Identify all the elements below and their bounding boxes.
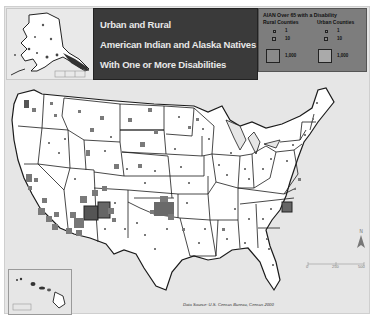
legend-urban-value-2: 10 xyxy=(337,36,342,41)
data-source-note: Data Source: U.S. Census Bureau, Census … xyxy=(183,302,274,307)
legend-rural-value-1: 1 xyxy=(285,28,288,33)
legend-rural-symbol-large xyxy=(266,49,280,63)
legend-rural-value-2: 10 xyxy=(285,36,290,41)
legend-urban-value-1: 1 xyxy=(337,28,340,33)
title-line-1: Urban and Rural xyxy=(100,19,171,30)
legend-rural-value-3: 1,000 xyxy=(285,53,296,58)
legend-title: AIAN Over 65 with a Disability xyxy=(263,12,337,18)
hawaii-shape xyxy=(9,270,71,314)
title-line-3: With One or More Disabilities xyxy=(100,59,226,70)
legend: AIAN Over 65 with a Disability Rural Cou… xyxy=(258,8,367,72)
title-panel: Urban and Rural American Indian and Alas… xyxy=(93,8,258,80)
scale-label-250: 250 xyxy=(332,264,339,269)
map-figure: Urban and Rural American Indian and Alas… xyxy=(0,0,373,324)
title-line-2: American Indian and Alaska Natives xyxy=(100,39,256,50)
legend-urban-symbol-medium xyxy=(324,37,328,41)
north-arrow-icon: N xyxy=(355,228,367,252)
scale-bar: 0 250 500 xyxy=(306,258,366,270)
legend-rural-symbol-small xyxy=(273,30,276,33)
alaska-inset xyxy=(6,8,94,80)
legend-rural-symbol-medium xyxy=(272,37,276,41)
scale-label-0: 0 xyxy=(306,264,308,269)
hawaii-inset xyxy=(8,269,72,315)
legend-urban-value-3: 1,000 xyxy=(337,53,348,58)
legend-rural-label: Rural Counties xyxy=(263,19,299,25)
legend-urban-symbol-large xyxy=(318,49,332,63)
alaska-shape xyxy=(7,9,93,79)
scale-label-500: 500 xyxy=(358,264,365,269)
legend-urban-symbol-small xyxy=(325,30,328,33)
svg-text:N: N xyxy=(359,229,362,234)
legend-urban-label: Urban Counties xyxy=(317,19,354,25)
